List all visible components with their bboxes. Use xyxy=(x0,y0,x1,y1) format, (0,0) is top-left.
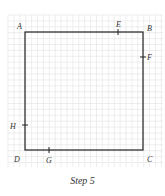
point-label-g: G xyxy=(46,156,52,165)
point-label-f: F xyxy=(146,53,152,62)
square-construction-diagram: ABCDEFGH xyxy=(0,0,165,196)
point-label-d: D xyxy=(13,155,20,164)
point-label-a: A xyxy=(16,22,22,31)
square-abcd xyxy=(25,32,143,150)
point-label-c: C xyxy=(147,155,153,164)
point-label-h: H xyxy=(9,122,17,131)
graph-paper-grid xyxy=(8,15,163,167)
step-caption: Step 5 xyxy=(0,175,165,186)
vertex-labels: ABCDEFGH xyxy=(9,20,153,165)
midpoint-ticks xyxy=(22,29,146,153)
point-label-b: B xyxy=(147,24,152,33)
point-label-e: E xyxy=(115,20,121,29)
